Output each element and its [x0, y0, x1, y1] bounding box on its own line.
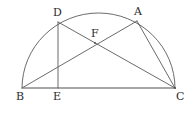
- geometry-figure: D A F B E C: [0, 0, 195, 115]
- point-label-d: D: [53, 7, 62, 18]
- point-label-b: B: [16, 91, 24, 102]
- chord-dc: [58, 22, 175, 88]
- geometry-canvas: [0, 0, 195, 115]
- point-label-c: C: [176, 91, 184, 102]
- chord-ac: [137, 21, 175, 88]
- vertex-dot-f: [94, 42, 96, 44]
- semicircle-arc-bc: [22, 13, 175, 88]
- point-label-f: F: [91, 28, 99, 39]
- arc-group: [22, 13, 175, 88]
- point-label-a: A: [134, 6, 142, 17]
- chord-ba: [22, 21, 137, 88]
- vertex-dot-c: [174, 87, 176, 89]
- point-label-e: E: [53, 91, 61, 102]
